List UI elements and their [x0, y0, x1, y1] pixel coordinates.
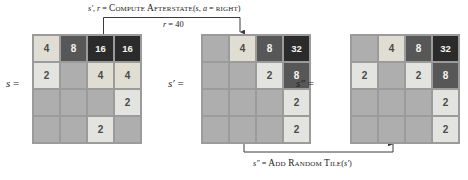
- tile-16: 16: [88, 36, 113, 61]
- tile-4: 4: [88, 63, 113, 88]
- tile-empty: [203, 63, 228, 88]
- tile-2: 2: [88, 117, 113, 142]
- board-label-next-state-symbol: s″: [296, 77, 305, 89]
- figure-canvas: s′, r = Compute Afterstate(s, a = right)…: [0, 0, 468, 180]
- tile-2: 2: [34, 63, 59, 88]
- tile-2: 2: [284, 90, 309, 115]
- tile-32: 32: [433, 36, 458, 61]
- board-label-state: s =: [6, 78, 19, 89]
- tile-empty: [61, 90, 86, 115]
- tile-2: 2: [433, 90, 458, 115]
- tile-empty: [61, 117, 86, 142]
- board-label-state-equals: =: [13, 77, 19, 89]
- board-label-next-state: s″ =: [296, 78, 314, 89]
- tile-empty: [115, 117, 140, 142]
- board-label-afterstate-equals: =: [177, 77, 183, 89]
- tile-4: 4: [230, 36, 255, 61]
- add-random-tile-caption: s″ = Add Random Tile(s′): [253, 159, 352, 168]
- tile-8: 8: [61, 36, 86, 61]
- tile-2: 2: [257, 63, 282, 88]
- board-afterstate[interactable]: 48322822: [201, 34, 311, 144]
- tile-empty: [203, 36, 228, 61]
- bottom-caption-paren-close: ): [349, 159, 352, 168]
- tile-empty: [203, 90, 228, 115]
- tile-empty: [34, 90, 59, 115]
- tile-empty: [257, 90, 282, 115]
- tile-4: 4: [379, 36, 404, 61]
- tile-8: 8: [257, 36, 282, 61]
- tile-empty: [61, 63, 86, 88]
- tile-empty: [88, 90, 113, 115]
- tile-empty: [352, 90, 377, 115]
- tile-empty: [379, 63, 404, 88]
- tile-empty: [406, 117, 431, 142]
- board-label-afterstate-symbol: s′: [168, 77, 175, 89]
- tile-2: 2: [406, 63, 431, 88]
- tile-empty: [230, 117, 255, 142]
- tile-empty: [379, 90, 404, 115]
- tile-empty: [203, 117, 228, 142]
- tile-empty: [34, 117, 59, 142]
- tile-32: 32: [284, 36, 309, 61]
- tile-empty: [352, 36, 377, 61]
- tile-empty: [406, 90, 431, 115]
- tile-empty: [230, 90, 255, 115]
- board-label-next-state-equals: =: [308, 77, 314, 89]
- tile-2: 2: [115, 90, 140, 115]
- tile-2: 2: [284, 117, 309, 142]
- board-next-state[interactable]: 483222822: [350, 34, 460, 144]
- tile-empty: [352, 117, 377, 142]
- bottom-caption-s-double-prime: s″: [253, 159, 260, 168]
- tile-empty: [257, 117, 282, 142]
- tile-16: 16: [115, 36, 140, 61]
- bottom-caption-function-name: Add Random Tile: [268, 158, 341, 168]
- tile-2: 2: [433, 117, 458, 142]
- tile-8: 8: [433, 63, 458, 88]
- tile-2: 2: [352, 63, 377, 88]
- board-label-afterstate: s′ =: [168, 78, 184, 89]
- tile-4: 4: [115, 63, 140, 88]
- board-state[interactable]: 48161624422: [32, 34, 142, 144]
- tile-4: 4: [34, 36, 59, 61]
- board-label-state-symbol: s: [6, 77, 10, 89]
- tile-empty: [379, 117, 404, 142]
- tile-empty: [230, 63, 255, 88]
- tile-8: 8: [406, 36, 431, 61]
